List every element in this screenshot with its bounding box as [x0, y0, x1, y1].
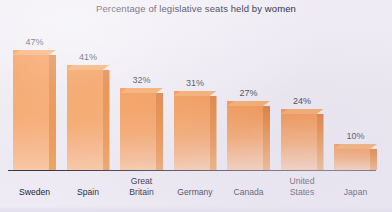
- bar-front-face: [281, 109, 317, 170]
- bar-front-face: [13, 50, 49, 170]
- bar-side-face: [263, 106, 270, 170]
- bar-side-face: [210, 96, 217, 170]
- bar-side-face: [156, 93, 163, 170]
- bar-value-label: 10%: [334, 131, 377, 141]
- page-edge-fade: [0, 206, 392, 212]
- bar-value-label: 27%: [227, 88, 270, 98]
- bar-top-face: [334, 144, 377, 149]
- x-axis-label-5: Canada: [219, 187, 278, 198]
- bar-1: 47%: [13, 50, 56, 170]
- bar-top-face: [281, 109, 324, 114]
- x-axis-line: [8, 170, 376, 171]
- bar-value-label: 24%: [281, 96, 324, 106]
- x-axis-label-6: United States: [273, 176, 332, 198]
- x-axis-label-2: Spain: [59, 187, 118, 198]
- x-axis-label-1: Sweden: [5, 187, 64, 198]
- bar-6: 24%: [281, 109, 324, 170]
- plot-area: 47%Sweden41%Spain32%Great Britain31%Germ…: [0, 0, 392, 212]
- bar-value-label: 31%: [174, 78, 217, 88]
- bar-3: 32%: [120, 88, 163, 170]
- bar-side-face: [370, 149, 377, 170]
- bar-front-face: [227, 101, 263, 170]
- bar-top-face: [67, 65, 110, 70]
- bar-5: 27%: [227, 101, 270, 170]
- bar-front-face: [67, 65, 103, 170]
- x-axis-label-3: Great Britain: [112, 176, 171, 198]
- bar-shape: [120, 88, 163, 170]
- bar-side-face: [317, 114, 324, 170]
- bar-top-face: [13, 50, 56, 55]
- bar-front-face: [174, 91, 210, 170]
- bar-side-face: [103, 70, 110, 170]
- bar-value-label: 32%: [120, 75, 163, 85]
- chart-figure: Percentage of legislative seats held by …: [0, 0, 392, 212]
- bar-shape: [334, 144, 377, 170]
- bar-shape: [67, 65, 110, 170]
- bar-shape: [174, 91, 217, 170]
- bar-value-label: 41%: [67, 52, 110, 62]
- bar-4: 31%: [174, 91, 217, 170]
- x-axis-label-7: Japan: [326, 187, 385, 198]
- bar-2: 41%: [67, 65, 110, 170]
- bar-top-face: [227, 101, 270, 106]
- bar-shape: [227, 101, 270, 170]
- bar-side-face: [49, 55, 56, 170]
- bar-7: 10%: [334, 144, 377, 170]
- bar-shape: [13, 50, 56, 170]
- bar-shape: [281, 109, 324, 170]
- x-axis-label-4: Germany: [166, 187, 225, 198]
- bar-value-label: 47%: [13, 37, 56, 47]
- bar-front-face: [120, 88, 156, 170]
- bar-top-face: [120, 88, 163, 93]
- bar-top-face: [174, 91, 217, 96]
